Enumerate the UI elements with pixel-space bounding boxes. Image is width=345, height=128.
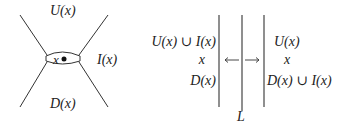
arrow-right-icon [245,58,259,63]
label-D: D(x) [50,97,76,111]
label-I: I(x) [97,53,117,67]
label-U: U(x) [50,4,76,18]
right-col-row-3: D(x) ∪ I(x) [267,74,332,88]
left-col-row-2: x [199,53,205,67]
label-L: L [237,110,245,124]
vertical-lines [219,15,264,111]
left-col-row-3: D(x) [190,74,216,88]
right-col-row-1: U(x) [274,35,300,49]
left-col-row-1: U(x) ∪ I(x) [151,35,216,49]
right-col-row-2: x [284,53,290,67]
label-x-point: x [53,53,59,67]
arrow-left-icon [225,58,239,63]
point-dot [62,57,67,62]
